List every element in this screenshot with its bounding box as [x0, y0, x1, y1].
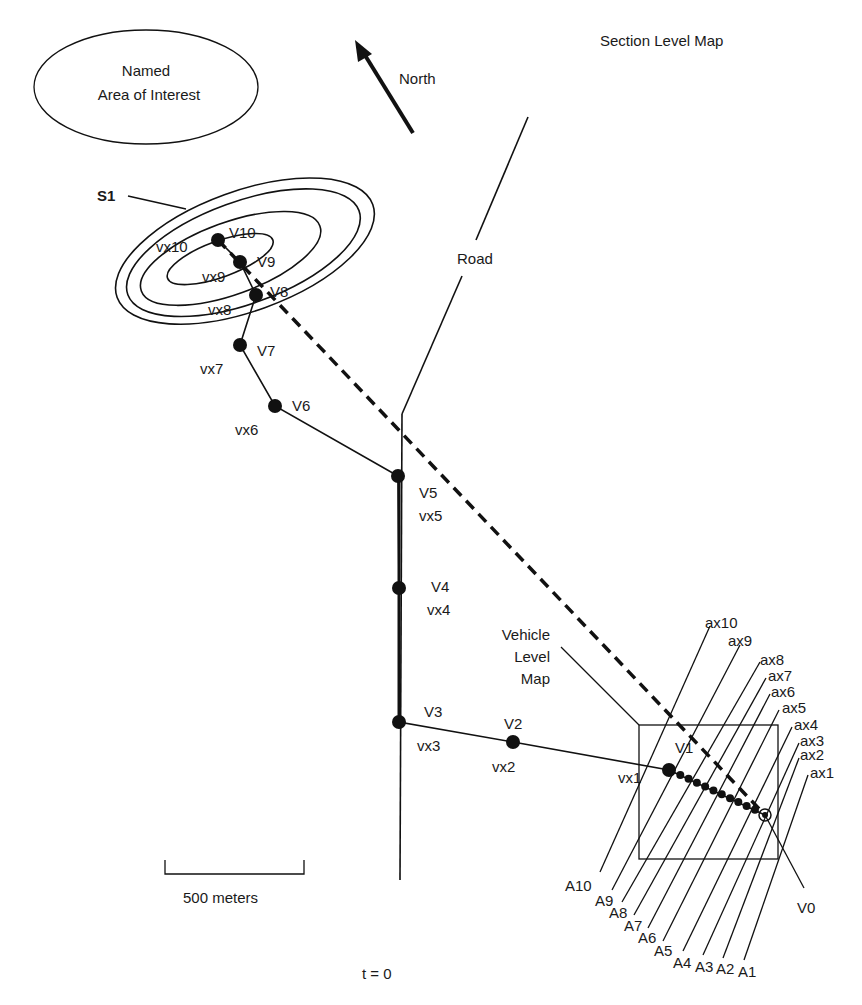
waypoint-label: V8 — [270, 283, 288, 300]
scale-bar — [165, 860, 304, 874]
fan-lines: A1ax1A2ax2A3ax3A4ax4A5ax5A6ax6A7ax7A8ax8… — [565, 614, 834, 980]
waypoint-vx-label: vx10 — [156, 238, 188, 255]
waypoint-label: V1 — [675, 739, 693, 756]
vehicle-map-label-line3: Map — [521, 670, 550, 687]
waypoint-v6[interactable] — [268, 399, 282, 413]
waypoint-vx-label: vx9 — [202, 268, 225, 285]
waypoint-v9[interactable] — [233, 255, 247, 269]
waypoint-vx-label: vx7 — [200, 360, 223, 377]
waypoint-v3[interactable] — [392, 715, 406, 729]
scale-label: 500 meters — [183, 889, 258, 906]
north-label: North — [399, 70, 436, 87]
fan-line-10 — [600, 626, 710, 872]
vehicle-level-map-box[interactable] — [639, 725, 778, 859]
waypoint-v8[interactable] — [249, 288, 263, 302]
a-label: A9 — [595, 892, 613, 909]
a-label: A1 — [738, 963, 756, 980]
waypoint-label: V6 — [292, 397, 310, 414]
waypoint-v2[interactable] — [506, 735, 520, 749]
waypoint-v1[interactable] — [662, 763, 676, 777]
a-label: A10 — [565, 877, 592, 894]
direct-path-dashed — [218, 240, 765, 815]
ax-label: ax10 — [705, 614, 738, 631]
vehicle-map-label-line1: Vehicle — [502, 626, 550, 643]
ax-label: ax7 — [768, 667, 792, 684]
waypoint-label: V9 — [257, 253, 275, 270]
s1-contours[interactable] — [97, 148, 394, 354]
ax-label: ax3 — [800, 732, 824, 749]
vehicle-map-label-line2: Level — [514, 648, 550, 665]
waypoint-label: V7 — [257, 342, 275, 359]
named-area-of-interest[interactable]: Named Area of Interest — [34, 30, 258, 144]
time-label: t = 0 — [362, 965, 392, 982]
waypoint-vx-label: vx4 — [427, 601, 450, 618]
waypoint-vx-label: vx3 — [417, 737, 440, 754]
fan-line-3 — [703, 743, 799, 955]
road-label: Road — [457, 250, 493, 267]
ax-label: ax8 — [760, 651, 784, 668]
ax-label: ax6 — [771, 683, 795, 700]
ax-label: ax9 — [728, 632, 752, 649]
waypoint-v4[interactable] — [392, 581, 406, 595]
section-level-map-diagram: Section Level Map Named Area of Interest… — [0, 0, 862, 1005]
named-area-label-line2: Area of Interest — [98, 86, 201, 103]
a-label: A5 — [654, 942, 672, 959]
waypoint-label: V3 — [424, 703, 442, 720]
ax-label: ax4 — [794, 716, 818, 733]
v0-label: V0 — [797, 899, 815, 916]
waypoint-v7[interactable] — [233, 338, 247, 352]
ax-label: ax5 — [782, 699, 806, 716]
waypoint-label: V4 — [431, 578, 449, 595]
named-area-label-line1: Named — [122, 62, 170, 79]
fan-line-8 — [622, 662, 760, 902]
fan-line-4 — [683, 727, 792, 951]
a-label: A3 — [695, 958, 713, 975]
ax-label: ax1 — [810, 764, 834, 781]
map-title: Section Level Map — [600, 32, 723, 49]
a-label: A4 — [673, 954, 691, 971]
waypoint-vx-label: vx1 — [618, 769, 641, 786]
waypoint-label: V2 — [504, 715, 522, 732]
waypoint-vx-label: vx8 — [208, 301, 231, 318]
s1-label: S1 — [97, 187, 115, 204]
a-label: A2 — [716, 960, 734, 977]
waypoint-vx-label: vx5 — [419, 507, 442, 524]
waypoint-vx-label: vx2 — [492, 758, 515, 775]
waypoint-label: V5 — [419, 484, 437, 501]
waypoint-label: V10 — [229, 224, 256, 241]
waypoint-v5[interactable] — [391, 469, 405, 483]
waypoint-vx-label: vx6 — [235, 421, 258, 438]
fan-line-7 — [634, 678, 766, 915]
waypoint-v10[interactable] — [211, 233, 225, 247]
